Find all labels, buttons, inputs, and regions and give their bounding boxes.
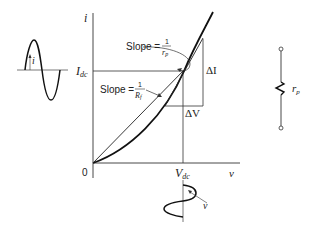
delta-v-label: ΔV	[185, 107, 200, 119]
slope-rp-denominator: rp	[162, 48, 168, 57]
delta-i-label: ΔI	[206, 64, 217, 76]
voltage-wave-label: v	[203, 200, 208, 211]
current-wave-label: i	[32, 55, 35, 66]
vdc-label: Vdc	[175, 166, 190, 181]
x-axis-label: v	[229, 167, 234, 179]
idc-label: Idc	[75, 64, 88, 79]
resistor-terminal-bottom	[279, 126, 283, 130]
resistor-terminal-top	[279, 47, 283, 51]
slope-rf-arrow	[146, 90, 160, 96]
tangent-line	[165, 38, 203, 106]
resistor-label: rp	[292, 82, 300, 96]
slope-rf-denominator: Rf	[134, 91, 143, 100]
slope-rf-numerator: 1	[138, 81, 142, 88]
slope-rp-label: Slope =	[126, 41, 160, 52]
arrowhead-icon	[188, 190, 192, 194]
diode-characteristic-diagram: i v 0 Idc Vdc Slope = 1 rp Slope = 1 Rf …	[0, 0, 316, 234]
slope-rp-numerator: 1	[165, 38, 169, 45]
resistor-icon	[276, 82, 284, 95]
voltage-waveform	[164, 185, 196, 217]
y-axis-label: i	[84, 11, 87, 25]
slope-rf-label: Slope =	[100, 84, 134, 95]
origin-label: 0	[82, 167, 88, 178]
